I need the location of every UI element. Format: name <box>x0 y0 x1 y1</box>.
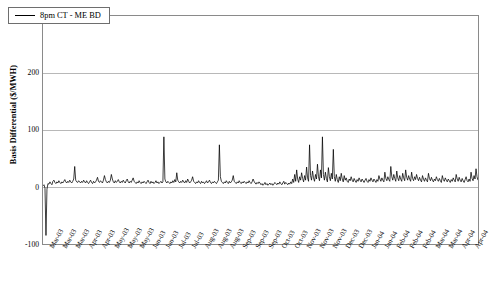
legend-line-swatch <box>15 15 35 16</box>
series-canvas <box>43 16 478 244</box>
y-tick-label-200: 200 <box>15 69 39 77</box>
y-tick-label-0: 0 <box>15 184 39 192</box>
y-tick-label-100: 100 <box>15 126 39 134</box>
chart-legend: 8pm CT - ME BD <box>8 7 110 24</box>
series-line-8pm-ct-me-bd <box>43 137 478 236</box>
chart-figure: Basis Differential ($/MWH) 3002001000-10… <box>0 0 502 296</box>
x-axis-tick-labels: Mar-03Mar-03Mar-03Apr-03Apr-03May-03May-… <box>42 246 479 296</box>
y-axis-tick-labels: 3002001000-100 <box>12 0 39 250</box>
y-tick-label--100: -100 <box>15 241 39 249</box>
plot-area <box>42 15 479 245</box>
legend-label: 8pm CT - ME BD <box>40 11 101 20</box>
gridlines <box>43 73 478 187</box>
